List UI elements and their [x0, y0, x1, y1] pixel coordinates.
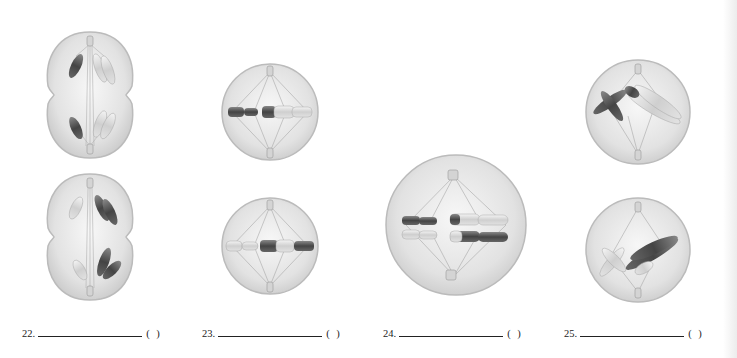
question-24-label: 24. ( ) [383, 326, 523, 339]
answer-parentheses[interactable]: ( ) [146, 328, 162, 339]
figure-22-top [40, 28, 140, 162]
figure-25-bottom [582, 194, 694, 306]
question-number: 25. [564, 328, 577, 339]
figure-23-top [218, 60, 322, 164]
answer-blank[interactable] [38, 326, 142, 337]
question-number: 24. [383, 328, 396, 339]
figure-22-bottom [40, 170, 140, 304]
answer-blank[interactable] [399, 326, 503, 337]
figure-24 [382, 152, 530, 298]
answer-parentheses[interactable]: ( ) [688, 328, 704, 339]
question-number: 23. [202, 328, 215, 339]
answer-parentheses[interactable]: ( ) [326, 328, 342, 339]
question-23-label: 23. ( ) [202, 326, 342, 339]
answer-blank[interactable] [218, 326, 322, 337]
page-edge-shadow [723, 0, 737, 358]
question-22-label: 22. ( ) [22, 326, 162, 339]
question-25-label: 25. ( ) [564, 326, 704, 339]
answer-blank[interactable] [580, 326, 684, 337]
figure-25-top [582, 56, 694, 168]
question-number: 22. [22, 328, 35, 339]
answer-parentheses[interactable]: ( ) [507, 328, 523, 339]
figure-23-bottom [218, 194, 322, 298]
